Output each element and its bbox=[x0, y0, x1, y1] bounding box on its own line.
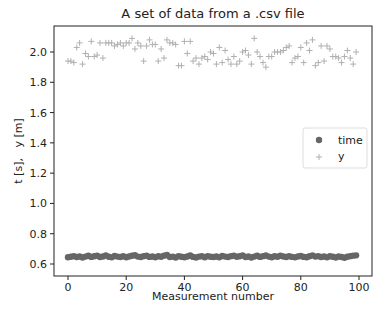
y-point bbox=[248, 61, 254, 67]
x-tick-label: 20 bbox=[119, 281, 133, 294]
y-point bbox=[85, 54, 91, 60]
y-point bbox=[336, 55, 342, 61]
y-point bbox=[353, 49, 359, 55]
y-point bbox=[181, 38, 187, 44]
y-point bbox=[199, 55, 205, 61]
y-point bbox=[280, 47, 286, 53]
y-tick-label: 1.4 bbox=[30, 137, 48, 150]
y-point bbox=[245, 52, 251, 58]
y-point bbox=[289, 60, 295, 66]
y-point bbox=[184, 51, 190, 57]
y-point bbox=[295, 54, 301, 60]
x-tick-label: 100 bbox=[349, 281, 370, 294]
y-point bbox=[120, 43, 126, 49]
y-point bbox=[286, 43, 292, 49]
y-point bbox=[350, 61, 356, 67]
y-point bbox=[82, 51, 88, 57]
y-point bbox=[114, 41, 120, 47]
y-point bbox=[152, 41, 158, 47]
y-point bbox=[80, 61, 86, 67]
y-point bbox=[304, 40, 310, 46]
y-point bbox=[277, 49, 283, 55]
y-point bbox=[141, 58, 147, 64]
y-point bbox=[234, 61, 240, 67]
y-point bbox=[202, 54, 208, 60]
y-point bbox=[213, 61, 219, 67]
y-point bbox=[146, 37, 152, 43]
scatter-chart: A set of data from a .csv file 020406080… bbox=[0, 0, 392, 314]
y-point bbox=[216, 44, 222, 50]
y-point bbox=[109, 40, 115, 46]
y-point bbox=[339, 60, 345, 66]
y-point bbox=[344, 47, 350, 53]
y-point bbox=[91, 54, 97, 60]
y-point bbox=[243, 47, 249, 53]
y-point bbox=[225, 57, 231, 63]
legend-time-marker-icon bbox=[316, 137, 322, 143]
y-tick-label: 1.8 bbox=[30, 76, 48, 89]
legend-y-label: y bbox=[338, 150, 345, 163]
y-point bbox=[170, 40, 176, 46]
y-point bbox=[196, 61, 202, 67]
y-point bbox=[68, 58, 74, 64]
y-point bbox=[222, 47, 228, 53]
y-point bbox=[97, 40, 103, 46]
y-point bbox=[135, 40, 141, 46]
y-point bbox=[94, 52, 100, 58]
y-axis-label: t [s], y [m] bbox=[12, 118, 25, 183]
y-point bbox=[187, 38, 193, 44]
y-point bbox=[155, 58, 161, 64]
y-point bbox=[254, 49, 260, 55]
y-point bbox=[315, 60, 321, 66]
chart-title: A set of data from a .csv file bbox=[121, 6, 304, 21]
y-point bbox=[100, 55, 106, 61]
y-point bbox=[126, 40, 132, 46]
y-point bbox=[205, 57, 211, 63]
y-point bbox=[333, 54, 339, 60]
x-tick-label: 80 bbox=[294, 281, 308, 294]
y-point bbox=[327, 46, 333, 52]
y-point bbox=[117, 40, 123, 46]
y-point bbox=[324, 43, 330, 49]
y-point bbox=[228, 61, 234, 67]
y-tick-label: 1.0 bbox=[30, 197, 48, 210]
legend-time-label: time bbox=[338, 134, 363, 147]
y-point bbox=[71, 60, 77, 66]
y-point bbox=[158, 46, 164, 52]
time-point bbox=[353, 252, 359, 258]
y-point bbox=[211, 51, 217, 57]
y-point bbox=[321, 58, 327, 64]
y-point bbox=[347, 55, 353, 61]
y-axis-ticks: 0.60.81.01.21.41.61.82.0 bbox=[30, 46, 55, 271]
y-point bbox=[237, 58, 243, 64]
y-point bbox=[283, 44, 289, 50]
y-point bbox=[251, 35, 257, 41]
y-point bbox=[307, 47, 313, 53]
y-point bbox=[269, 54, 275, 60]
y-point bbox=[231, 54, 237, 60]
y-point bbox=[257, 54, 263, 60]
y-point bbox=[178, 63, 184, 69]
x-tick-label: 0 bbox=[65, 281, 72, 294]
y-point bbox=[144, 43, 150, 49]
y-point bbox=[309, 37, 315, 43]
y-tick-label: 2.0 bbox=[30, 46, 48, 59]
y-point bbox=[260, 60, 266, 66]
y-tick-label: 1.6 bbox=[30, 107, 48, 120]
y-point bbox=[318, 43, 324, 49]
y-tick-label: 1.2 bbox=[30, 167, 48, 180]
y-point bbox=[129, 35, 135, 41]
y-point bbox=[190, 58, 196, 64]
y-point bbox=[132, 46, 138, 52]
y-tick-label: 0.6 bbox=[30, 258, 48, 271]
legend: time y bbox=[303, 128, 367, 168]
y-point bbox=[312, 63, 318, 69]
y-point bbox=[298, 44, 304, 50]
y-point bbox=[263, 64, 269, 70]
y-point bbox=[219, 60, 225, 66]
y-point bbox=[193, 55, 199, 61]
y-point bbox=[341, 54, 347, 60]
y-tick-label: 0.8 bbox=[30, 228, 48, 241]
x-axis-label: Measurement number bbox=[152, 290, 274, 303]
y-point bbox=[88, 38, 94, 44]
